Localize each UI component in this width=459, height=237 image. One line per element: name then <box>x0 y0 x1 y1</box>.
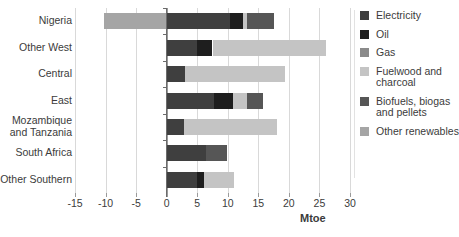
bar-segment <box>185 66 285 82</box>
legend-item[interactable]: Electricity <box>360 10 459 22</box>
legend-label: Oil <box>376 29 389 41</box>
legend-swatch-icon <box>360 48 369 57</box>
bar-segment <box>167 145 207 161</box>
x-tick-label: 10 <box>222 197 234 209</box>
x-tick-label: -15 <box>67 197 82 209</box>
legend-label: Fuelwood and charcoal <box>376 66 459 89</box>
category-label: Other West <box>0 42 72 54</box>
legend-label: Biofuels, biogas and pellets <box>376 96 459 119</box>
category-labels: NigeriaOther WestCentralEastMozambiquean… <box>0 8 72 193</box>
y-tick <box>163 87 167 88</box>
bar-segment <box>206 145 226 161</box>
bar-row <box>75 13 350 29</box>
y-tick <box>163 114 167 115</box>
legend-item[interactable]: Other renewables <box>360 126 459 138</box>
legend-item[interactable]: Biofuels, biogas and pellets <box>360 96 459 119</box>
legend-swatch-icon <box>360 127 369 136</box>
bar-row <box>75 40 350 56</box>
x-tick-label: 30 <box>344 197 356 209</box>
x-tick-label: 15 <box>252 197 264 209</box>
category-label: Central <box>0 68 72 80</box>
legend-swatch-icon <box>360 67 369 76</box>
bar-segment <box>197 172 204 188</box>
legend-swatch-icon <box>360 30 369 39</box>
legend-item[interactable]: Gas <box>360 47 459 59</box>
bar-segment <box>167 66 185 82</box>
x-axis: -15-10-5051015202530 <box>75 193 350 199</box>
y-tick <box>163 8 167 9</box>
y-tick <box>163 34 167 35</box>
y-tick <box>163 140 167 141</box>
bar-segment <box>167 40 198 56</box>
x-tick-label: 0 <box>164 197 170 209</box>
bar-segment <box>167 172 197 188</box>
category-label: East <box>0 95 72 107</box>
category-label: Nigeria <box>0 15 72 27</box>
plot-area <box>75 8 350 193</box>
bar-segment <box>167 13 230 29</box>
x-tick-label: -10 <box>98 197 113 209</box>
x-tick-label: 5 <box>194 197 200 209</box>
y-tick <box>163 61 167 62</box>
bar-segment <box>184 119 278 135</box>
y-axis-line <box>166 8 167 197</box>
bar-segment <box>230 13 243 29</box>
bar-segment <box>214 93 233 109</box>
bars-layer <box>75 8 350 193</box>
bar-segment <box>104 13 167 29</box>
x-tick-label: 25 <box>314 197 326 209</box>
bar-row <box>75 93 350 109</box>
x-tick-label: 20 <box>283 197 295 209</box>
bar-row <box>75 119 350 135</box>
y-tick <box>163 167 167 168</box>
legend-divider <box>354 10 355 178</box>
chart-container: NigeriaOther WestCentralEastMozambiquean… <box>0 0 459 237</box>
category-label: Mozambiqueand Tanzania <box>0 115 72 138</box>
bar-segment <box>197 40 212 56</box>
bar-segment <box>204 172 234 188</box>
category-label: South Africa <box>0 147 72 159</box>
bar-row <box>75 145 350 161</box>
bar-segment <box>167 119 184 135</box>
chart-legend: ElectricityOilGasFuelwood and charcoalBi… <box>360 10 459 144</box>
legend-label: Electricity <box>376 10 421 22</box>
bar-segment <box>247 13 274 29</box>
legend-item[interactable]: Oil <box>360 29 459 41</box>
category-label: Other Southern <box>0 174 72 186</box>
bar-segment <box>167 93 214 109</box>
legend-swatch-icon <box>360 11 369 20</box>
legend-label: Gas <box>376 47 395 59</box>
x-axis-title: Mtoe <box>300 212 326 224</box>
legend-item[interactable]: Fuelwood and charcoal <box>360 66 459 89</box>
gridline-30 <box>350 8 351 193</box>
bar-segment <box>233 93 248 109</box>
bar-segment <box>213 40 326 56</box>
bar-row <box>75 172 350 188</box>
legend-label: Other renewables <box>376 126 459 138</box>
x-tick-label: -5 <box>131 197 140 209</box>
bar-segment <box>247 93 262 109</box>
legend-swatch-icon <box>360 97 369 106</box>
bar-row <box>75 66 350 82</box>
